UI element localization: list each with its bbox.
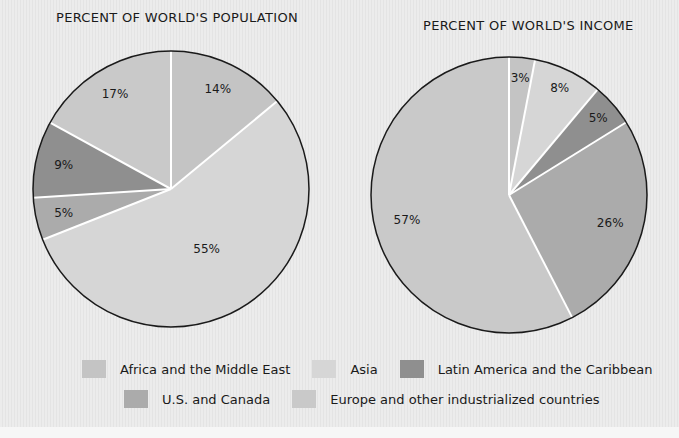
slice-label: 55% <box>193 242 220 256</box>
income-pie: 3%8%5%26%57% <box>371 57 647 333</box>
slice-label: 5% <box>54 206 73 220</box>
legend-item-asia: Asia <box>312 360 377 378</box>
legend-item-latin-america: Latin America and the Caribbean <box>400 360 653 378</box>
legend-swatch-europe <box>292 390 316 408</box>
legend-row-1: Africa and the Middle East Asia Latin Am… <box>82 360 674 378</box>
slice-label: 9% <box>54 158 73 172</box>
legend-item-us-canada: U.S. and Canada <box>124 390 270 408</box>
legend-label-latin-america: Latin America and the Caribbean <box>438 362 653 377</box>
legend-item-africa: Africa and the Middle East <box>82 360 290 378</box>
legend-swatch-africa <box>82 360 106 378</box>
legend-label-europe: Europe and other industrialized countrie… <box>330 392 599 407</box>
slice-label: 26% <box>597 216 624 230</box>
legend-label-africa: Africa and the Middle East <box>120 362 290 377</box>
bottom-strip <box>0 427 679 438</box>
legend-swatch-latin-america <box>400 360 424 378</box>
slice-label: 14% <box>204 82 231 96</box>
legend-label-us-canada: U.S. and Canada <box>162 392 270 407</box>
legend-label-asia: Asia <box>350 362 377 377</box>
legend-row-2: U.S. and Canada Europe and other industr… <box>124 390 621 408</box>
legend-swatch-us-canada <box>124 390 148 408</box>
slice-label: 8% <box>550 81 569 95</box>
population-pie: 14%55%5%9%17% <box>33 51 309 327</box>
legend-item-europe: Europe and other industrialized countrie… <box>292 390 599 408</box>
slice-label: 5% <box>589 111 608 125</box>
slice-label: 17% <box>102 87 129 101</box>
slice-label: 57% <box>394 213 421 227</box>
legend-swatch-asia <box>312 360 336 378</box>
slice-label: 3% <box>511 71 530 85</box>
